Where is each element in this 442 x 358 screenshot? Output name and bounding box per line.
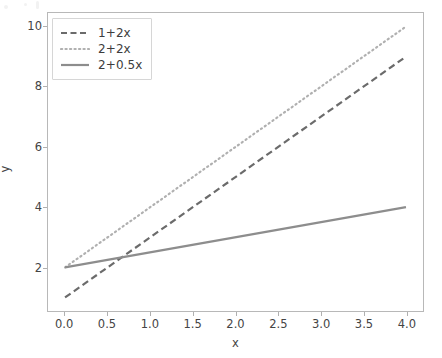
x-tick-label: 1.5 bbox=[184, 317, 202, 331]
legend-entry: 2+2x bbox=[60, 41, 142, 57]
series-line-2+0.5x bbox=[65, 207, 406, 267]
legend-label: 1+2x bbox=[98, 26, 131, 40]
x-tick-label: 4.0 bbox=[398, 317, 416, 331]
x-tick-label: 0.5 bbox=[98, 317, 116, 331]
legend-line-sample-solid bbox=[60, 59, 90, 71]
legend-label: 2+2x bbox=[98, 42, 131, 56]
legend: 1+2x 2+2x 2+0.5x bbox=[52, 18, 152, 80]
x-tick-label: 3.0 bbox=[312, 317, 330, 331]
x-tick-mark bbox=[407, 312, 408, 316]
figure: 1+2x 2+2x 2+0.5x 0.00.51.01.52.02.53.03.… bbox=[0, 0, 442, 358]
legend-entry: 1+2x bbox=[60, 25, 142, 41]
x-tick-mark bbox=[193, 312, 194, 316]
x-tick-mark bbox=[364, 312, 365, 316]
y-tick-label: 2 bbox=[35, 261, 42, 275]
legend-line-sample-dotted bbox=[60, 43, 90, 55]
legend-entry: 2+0.5x bbox=[60, 57, 142, 73]
x-tick-label: 2.5 bbox=[269, 317, 287, 331]
x-tick-mark bbox=[150, 312, 151, 316]
y-tick-mark bbox=[43, 268, 47, 269]
render-artifact bbox=[24, 3, 27, 6]
y-tick-label: 6 bbox=[35, 140, 42, 154]
plot-area: 1+2x 2+2x 2+0.5x bbox=[47, 12, 424, 312]
series-line-1+2x bbox=[65, 57, 406, 298]
x-tick-mark bbox=[107, 312, 108, 316]
y-tick-mark bbox=[43, 86, 47, 87]
y-axis-label: y bbox=[0, 166, 12, 173]
y-tick-label: 8 bbox=[35, 79, 42, 93]
legend-label: 2+0.5x bbox=[98, 58, 142, 72]
x-tick-label: 0.0 bbox=[55, 317, 73, 331]
x-tick-label: 2.0 bbox=[226, 317, 244, 331]
x-tick-mark bbox=[64, 312, 65, 316]
render-artifact bbox=[36, 1, 39, 9]
x-tick-mark bbox=[236, 312, 237, 316]
y-tick-mark bbox=[43, 26, 47, 27]
x-axis-label: x bbox=[47, 336, 424, 350]
x-tick-mark bbox=[278, 312, 279, 316]
y-tick-label: 4 bbox=[35, 200, 42, 214]
y-tick-mark bbox=[43, 147, 47, 148]
y-tick-mark bbox=[43, 207, 47, 208]
x-tick-mark bbox=[321, 312, 322, 316]
y-tick-label: 10 bbox=[27, 19, 42, 33]
x-tick-label: 3.5 bbox=[355, 317, 373, 331]
render-artifact bbox=[4, 5, 8, 9]
x-tick-label: 1.0 bbox=[141, 317, 159, 331]
legend-line-sample-dashed bbox=[60, 27, 90, 39]
